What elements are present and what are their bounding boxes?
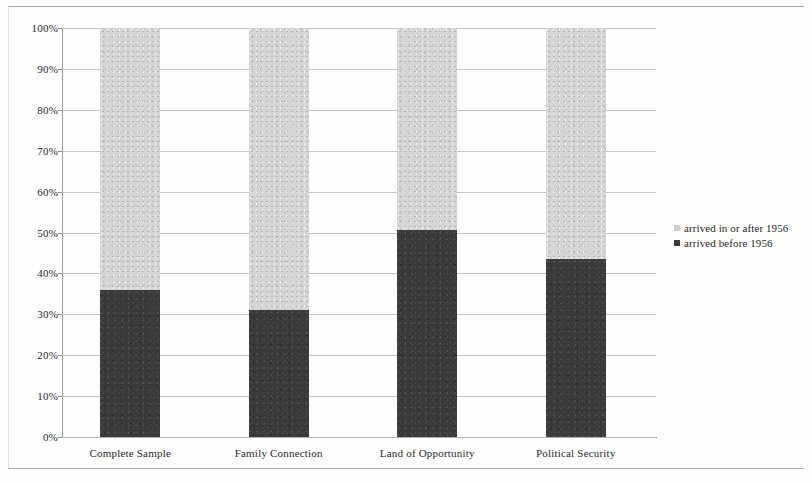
bar-group[interactable] <box>249 28 309 437</box>
x-axis-category-label: Complete Sample <box>45 447 215 459</box>
bar-segment[interactable] <box>546 28 606 259</box>
y-axis-tick-label: 80% <box>6 105 58 116</box>
bar-segment[interactable] <box>100 290 160 437</box>
page-rule-bottom <box>8 468 804 469</box>
y-axis-tick-label: 20% <box>6 350 58 361</box>
bar-segment[interactable] <box>100 28 160 290</box>
legend-swatch-icon <box>674 240 680 246</box>
y-axis-tick-label: 70% <box>6 146 58 157</box>
x-axis-category-label: Land of Opportunity <box>342 447 512 459</box>
bar-group[interactable] <box>546 28 606 437</box>
bar-group[interactable] <box>100 28 160 437</box>
y-axis-tick-label: 40% <box>6 268 58 279</box>
x-axis-category-label: Political Security <box>491 447 661 459</box>
y-axis-tick-label: 60% <box>6 187 58 198</box>
y-axis-tick-label: 90% <box>6 64 58 75</box>
bar-group[interactable] <box>397 28 457 437</box>
y-axis-tick-label: 50% <box>6 228 58 239</box>
x-axis-category-label: Family Connection <box>194 447 364 459</box>
y-axis-tick-label: 0% <box>6 432 58 443</box>
bar-segment[interactable] <box>397 28 457 230</box>
bar-segment[interactable] <box>249 28 309 310</box>
y-axis-tick-label: 30% <box>6 309 58 320</box>
bar-segment[interactable] <box>397 230 457 437</box>
legend-label: arrived in or after 1956 <box>684 222 788 234</box>
gridline <box>62 437 656 438</box>
bar-segment[interactable] <box>546 259 606 437</box>
legend-item[interactable]: arrived before 1956 <box>674 235 808 250</box>
figure-root: 0%10%20%30%40%50%60%70%80%90%100% Comple… <box>0 0 812 483</box>
legend-item[interactable]: arrived in or after 1956 <box>674 220 808 235</box>
bar-segment[interactable] <box>249 310 309 437</box>
plot-area <box>62 28 656 437</box>
legend-swatch-icon <box>674 225 680 231</box>
y-axis-tick-label: 10% <box>6 391 58 402</box>
page-rule-top <box>8 6 804 7</box>
legend-label: arrived before 1956 <box>684 237 773 249</box>
y-axis-tick-labels: 0%10%20%30%40%50%60%70%80%90%100% <box>0 0 58 483</box>
y-axis-tick-label: 100% <box>6 23 58 34</box>
chart-legend: arrived in or after 1956arrived before 1… <box>674 220 808 250</box>
